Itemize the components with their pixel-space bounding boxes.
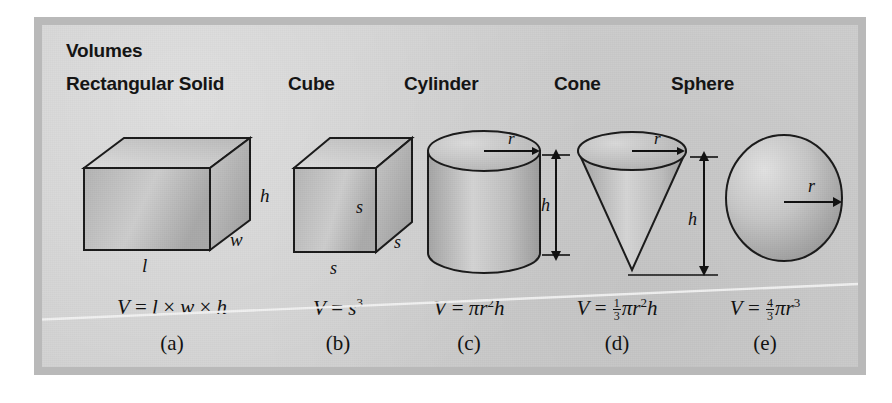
label-r: r [508, 129, 515, 148]
rectangular-solid-svg: h w l [72, 120, 292, 285]
label-r: r [808, 176, 816, 196]
label-h: h [260, 185, 270, 206]
label-h: h [541, 195, 550, 215]
column-header-cone: Cone [554, 73, 601, 95]
figure-root: Volumes Rectangular Solid Cube Cylinder … [0, 0, 892, 403]
caption-d: (d) [542, 331, 692, 356]
label-s-depth: s [394, 232, 401, 252]
formula-sphere: V = 43πr3 [692, 295, 838, 323]
caption-b: (b) [280, 331, 396, 356]
shape-rectangular-solid: h w l [72, 120, 292, 289]
shape-cylinder: r h [422, 115, 572, 294]
label-l: l [142, 255, 147, 276]
formula-rectangular-solid: V = l × w × h [64, 295, 280, 320]
column-header-sphere: Sphere [671, 73, 734, 95]
shape-cone: r h [572, 115, 722, 299]
caption-c: (c) [396, 331, 542, 356]
cube-svg: s s s [286, 120, 436, 285]
shape-sphere: r [722, 120, 858, 289]
figure-panel-inner: Volumes Rectangular Solid Cube Cylinder … [42, 25, 858, 367]
shape-cube: s s s [286, 120, 436, 289]
label-s-vertical: s [356, 197, 363, 217]
label-r: r [654, 129, 661, 148]
caption-e: (e) [692, 331, 838, 356]
label-h: h [688, 209, 697, 229]
formula-cone: V = 13πr2h [542, 295, 692, 323]
caption-a: (a) [64, 331, 280, 356]
label-s-width: s [330, 258, 337, 278]
column-header-rectangular-solid: Rectangular Solid [66, 73, 224, 95]
figure-title: Volumes [66, 40, 142, 62]
column-header-cube: Cube [288, 73, 335, 95]
cone-svg: r h [572, 115, 722, 295]
cylinder-svg: r h [422, 115, 572, 290]
label-w: w [230, 229, 243, 250]
figure-panel: Volumes Rectangular Solid Cube Cylinder … [34, 17, 866, 375]
sphere-svg: r [722, 120, 858, 285]
formula-cylinder: V = πr2h [396, 295, 542, 321]
column-header-cylinder: Cylinder [404, 73, 478, 95]
formula-cube: V = s3 [280, 295, 396, 321]
